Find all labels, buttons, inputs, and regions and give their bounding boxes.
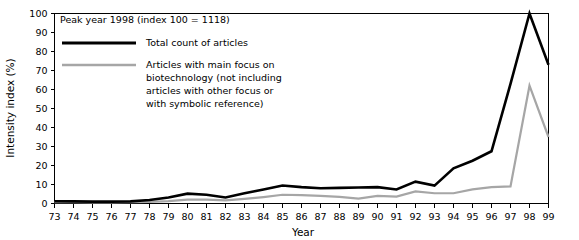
x-tick-label: 98 xyxy=(523,211,535,222)
y-tick-label: 10 xyxy=(35,179,47,190)
legend-label-biotech-focus-line3: articles with other focus or xyxy=(146,85,273,96)
x-tick-label: 92 xyxy=(409,211,421,222)
x-tick-label: 95 xyxy=(466,211,478,222)
x-axis-title: Year xyxy=(291,226,315,238)
x-tick-label: 88 xyxy=(333,211,345,222)
x-tick-label: 75 xyxy=(86,211,98,222)
y-tick-label: 80 xyxy=(35,46,47,57)
y-tick-label: 30 xyxy=(35,141,47,152)
series-line-a6a6a6 xyxy=(55,86,549,203)
line-chart: 0102030405060708090100 73747576777879808… xyxy=(0,0,579,240)
x-tick-label: 90 xyxy=(371,211,383,222)
x-tick-label: 99 xyxy=(542,211,554,222)
y-tick-labels: 0102030405060708090100 xyxy=(29,8,47,209)
y-tick-label: 60 xyxy=(35,84,47,95)
legend-label-biotech-focus-line2: biotechnology (not including xyxy=(146,72,282,83)
y-tick-label: 70 xyxy=(35,65,47,76)
x-tick-label: 89 xyxy=(352,211,364,222)
x-tick-label: 84 xyxy=(257,211,269,222)
y-tick-label: 0 xyxy=(41,198,47,209)
legend-label-biotech-focus-line1: Articles with main focus on xyxy=(146,59,275,70)
x-tick-label: 97 xyxy=(504,211,516,222)
x-tick-label: 93 xyxy=(428,211,440,222)
y-tick-label: 100 xyxy=(29,8,47,19)
x-tick-label: 76 xyxy=(105,211,117,222)
x-tick-label: 91 xyxy=(390,211,402,222)
x-tick-label: 85 xyxy=(276,211,288,222)
x-tick-labels: 7374757677787980818283848586878889909192… xyxy=(48,211,554,222)
legend-label-biotech-focus-line4: with symbolic reference) xyxy=(146,98,263,109)
x-tick-label: 86 xyxy=(295,211,307,222)
x-tick-label: 78 xyxy=(143,211,155,222)
x-tick-label: 87 xyxy=(314,211,326,222)
x-tick-label: 74 xyxy=(67,211,79,222)
x-tick-label: 96 xyxy=(485,211,497,222)
y-tick-label: 40 xyxy=(35,122,47,133)
legend-label-total-count: Total count of articles xyxy=(145,37,248,48)
y-tick-label: 20 xyxy=(35,160,47,171)
x-tick-label: 80 xyxy=(181,211,193,222)
x-tick-label: 73 xyxy=(48,211,60,222)
x-tick-label: 81 xyxy=(200,211,212,222)
peak-year-annotation: Peak year 1998 (index 100 = 1118) xyxy=(60,14,230,25)
x-tick-label: 77 xyxy=(124,211,136,222)
y-axis-title: Intensity index (%) xyxy=(4,58,16,157)
x-tick-label: 94 xyxy=(447,211,459,222)
y-tick-label: 90 xyxy=(35,27,47,38)
x-tick-label: 83 xyxy=(238,211,250,222)
x-tick-label: 79 xyxy=(162,211,174,222)
x-tick-label: 82 xyxy=(219,211,231,222)
y-tick-label: 50 xyxy=(35,103,47,114)
chart-figure: 0102030405060708090100 73747576777879808… xyxy=(0,0,579,240)
